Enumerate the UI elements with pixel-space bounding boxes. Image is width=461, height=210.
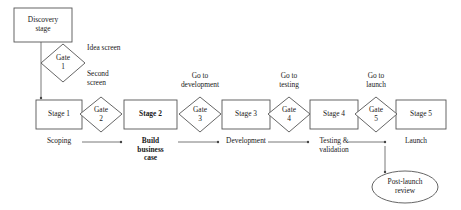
stage-3-caption: Development [210, 137, 282, 146]
gate-5-diamond [355, 97, 397, 132]
gate-1-diamond [41, 44, 85, 82]
gate-5-caption: Go to launch [346, 72, 406, 89]
stage-1-caption: Scoping [30, 137, 88, 146]
stage-4-box [310, 100, 358, 129]
gate-2-diamond [80, 97, 122, 132]
gate-3-caption: Go to development [166, 72, 234, 89]
stage-4-caption: Testing & validation [308, 137, 360, 154]
stage-2-caption: Build business case [124, 137, 177, 163]
post-launch-review-ellipse [372, 171, 438, 203]
stage-5-box [396, 100, 446, 129]
stage-5-caption: Launch [392, 137, 440, 146]
stage-2-box [124, 100, 177, 129]
discovery-stage-box [14, 8, 72, 42]
stage-3-box [222, 100, 270, 129]
stage-1-box [36, 100, 82, 129]
gate-3-diamond [179, 97, 221, 132]
gate-2-caption: Second screen [87, 70, 133, 87]
gate-4-diamond [268, 97, 310, 132]
gate-4-caption: Go to testing [259, 72, 319, 89]
diagram-shapes-layer [0, 0, 461, 210]
gate-1-caption: Idea screen [87, 44, 147, 53]
stage-gate-diagram: Discovery stage Gate 1 Stage 1 Stage 2 S… [0, 0, 461, 210]
